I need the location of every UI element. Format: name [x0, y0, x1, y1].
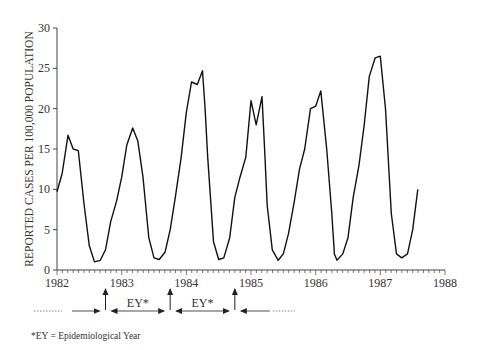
line-chart: 0510152025301982198319841985198619871988…	[0, 0, 481, 350]
series-line	[57, 56, 418, 262]
epidemiological-year-annotations: EY*EY*	[34, 289, 295, 311]
y-axis-label: REPORTED CASES PER 100,000 POPULATION	[23, 31, 36, 267]
ey-label: EY*	[127, 296, 149, 310]
x-tick-label: 1984	[174, 276, 198, 290]
x-tick-label: 1985	[239, 276, 263, 290]
y-tick-label: 10	[38, 182, 50, 196]
x-tick-label: 1983	[110, 276, 134, 290]
y-tick-label: 5	[44, 223, 50, 237]
ey-label: EY*	[192, 296, 214, 310]
y-tick-label: 0	[44, 263, 50, 277]
x-tick-label: 1987	[368, 276, 392, 290]
y-tick-label: 15	[38, 142, 50, 156]
y-tick-label: 25	[38, 61, 50, 75]
axes: 0510152025301982198319841985198619871988	[38, 21, 457, 290]
x-tick-label: 1988	[433, 276, 457, 290]
y-tick-label: 30	[38, 21, 50, 35]
data-series	[57, 56, 418, 262]
footnote: *EY = Epidemiological Year	[31, 331, 141, 341]
y-tick-label: 20	[38, 102, 50, 116]
x-tick-label: 1986	[304, 276, 328, 290]
x-tick-label: 1982	[45, 276, 69, 290]
